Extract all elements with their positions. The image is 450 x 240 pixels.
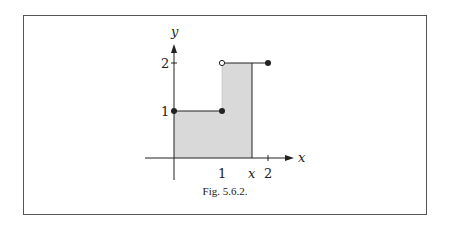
- x-tick-label-2: 2: [264, 166, 272, 181]
- x-axis-label: x: [298, 150, 306, 165]
- x-tick-label-x: x: [248, 166, 256, 181]
- x-axis-arrow-icon: [285, 155, 294, 161]
- closed-point-2-2: [265, 60, 271, 66]
- y-axis-arrow-icon: [171, 44, 177, 53]
- y-tick-label-2: 2: [161, 56, 169, 71]
- x-tick-label-1: 1: [218, 166, 226, 181]
- y-tick-label-1: 1: [161, 104, 169, 119]
- open-point-1-2: [219, 60, 224, 65]
- closed-point-0-1: [171, 108, 177, 114]
- closed-point-1-1: [219, 108, 225, 114]
- y-axis-label: y: [170, 24, 179, 39]
- figure-caption: Fig. 5.6.2.: [0, 185, 450, 197]
